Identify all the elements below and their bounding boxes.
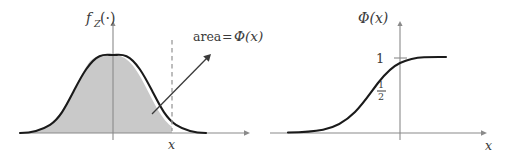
area-annotation-prefix: area: [193, 29, 222, 44]
cdf-y-axis-arrowhead: [397, 21, 402, 26]
shaded-area-region: [20, 55, 172, 133]
pdf-panel: area = Φ(x) f Z (·) x: [20, 10, 263, 152]
pdf-y-axis-label-arg: (·): [100, 10, 115, 26]
area-annotation-function: Φ(x): [234, 28, 263, 44]
pdf-y-axis-label: f Z (·): [85, 10, 115, 29]
normal-cdf-curve: [288, 57, 446, 133]
cdf-ytick-label-one: 1: [376, 51, 384, 66]
cdf-ytick-half-numerator: 1: [378, 79, 384, 90]
area-annotation-label: area = Φ(x): [193, 28, 263, 44]
cdf-ytick-label-half: 1 2: [377, 79, 386, 102]
pdf-x-tick-label: x: [168, 137, 175, 152]
area-annotation-equals: =: [222, 29, 232, 44]
cdf-ytick-half-denominator: 2: [378, 91, 384, 102]
pdf-x-axis-arrowhead: [244, 130, 250, 136]
cdf-panel: Φ(x) 1 1 2 x: [270, 10, 492, 153]
figure-canvas: area = Φ(x) f Z (·) x: [0, 0, 509, 159]
cdf-x-axis-label: x: [485, 138, 492, 153]
statistics-figure: area = Φ(x) f Z (·) x: [0, 0, 509, 159]
area-annotation-arrow: [152, 54, 211, 114]
pdf-y-axis-label-f: f: [85, 10, 94, 26]
cdf-y-axis-label: Φ(x): [358, 10, 388, 26]
cdf-x-axis-arrowhead: [481, 130, 487, 136]
